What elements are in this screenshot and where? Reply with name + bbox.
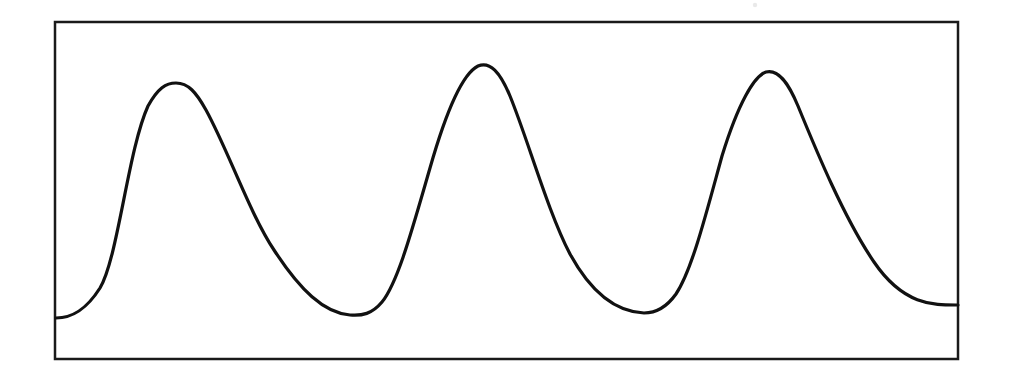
figure-page [0, 0, 1012, 384]
scan-speck-artifact [753, 3, 757, 7]
plot-border [55, 22, 958, 359]
line-chart-figure [0, 0, 1012, 384]
